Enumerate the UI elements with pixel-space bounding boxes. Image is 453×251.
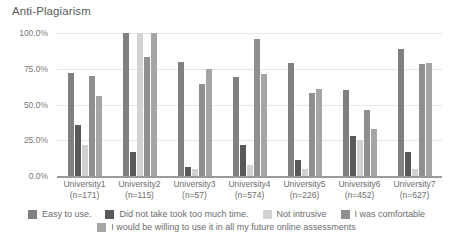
x-axis-category-count: (n=171) <box>57 190 112 201</box>
x-axis-category-count: (n=226) <box>277 190 332 201</box>
bar <box>240 145 246 176</box>
legend-item[interactable]: Did not take took too much time. <box>105 209 248 219</box>
y-axis-tick-label: 50.0% <box>24 100 48 110</box>
bar <box>364 110 370 176</box>
legend-item[interactable]: Easy to use. <box>28 209 92 219</box>
x-axis-category-label: University1(n=171) <box>57 179 112 200</box>
legend-item[interactable]: Not intrusive <box>263 209 327 219</box>
bar <box>89 76 95 176</box>
plot-area <box>57 33 442 176</box>
bar-group <box>167 33 222 176</box>
x-axis-category-label: University2(n=115) <box>112 179 167 200</box>
legend-swatch-icon <box>105 210 114 219</box>
x-axis-category-label: University5(n=226) <box>277 179 332 200</box>
legend-row-secondary: I would be willing to use it in all my f… <box>0 222 453 232</box>
chart-title: Anti-Plagiarism <box>12 5 91 17</box>
bar <box>316 89 322 176</box>
legend-swatch-icon <box>97 223 106 232</box>
bar <box>261 74 267 176</box>
legend-label: Easy to use. <box>42 209 92 219</box>
bar <box>75 125 81 176</box>
legend-swatch-icon <box>263 210 272 219</box>
x-axis-category-count: (n=57) <box>167 190 222 201</box>
bar <box>68 73 74 176</box>
legend-row-primary: Easy to use.Did not take took too much t… <box>0 209 453 219</box>
y-axis-tick-label: 25.0% <box>24 135 48 145</box>
bar <box>233 77 239 176</box>
legend-item[interactable]: I would be willing to use it in all my f… <box>97 222 356 232</box>
bar <box>96 96 102 176</box>
y-axis-tick-label: 75.0% <box>24 64 48 74</box>
bar-group <box>222 33 277 176</box>
legend-swatch-icon <box>28 210 37 219</box>
bar <box>206 69 212 176</box>
bar <box>426 63 432 176</box>
bar <box>82 145 88 176</box>
bar <box>350 136 356 176</box>
bar <box>371 129 377 176</box>
bar <box>123 33 129 176</box>
x-axis-category-name: University5 <box>283 179 325 189</box>
bar-group <box>277 33 332 176</box>
y-axis-tick-label: 100.0% <box>19 28 48 38</box>
x-axis-category-label: University3(n=57) <box>167 179 222 200</box>
legend-swatch-icon <box>341 210 350 219</box>
x-axis-category-name: University2 <box>118 179 160 189</box>
x-axis-category-count: (n=574) <box>222 190 277 201</box>
bar <box>405 152 411 176</box>
x-axis-category-name: University4 <box>228 179 270 189</box>
bar <box>343 90 349 176</box>
x-axis-category-count: (n=627) <box>387 190 442 201</box>
bar <box>309 93 315 176</box>
bar <box>398 49 404 176</box>
bar <box>144 57 150 176</box>
bar-group <box>112 33 167 176</box>
anti-plagiarism-bar-chart: Anti-Plagiarism 100.0%75.0%50.0%25.0%0.0… <box>0 0 453 251</box>
y-axis: 100.0%75.0%50.0%25.0%0.0% <box>0 33 52 176</box>
x-axis-category-name: University6 <box>338 179 380 189</box>
x-axis-category-count: (n=115) <box>112 190 167 201</box>
x-axis: University1(n=171)University2(n=115)Univ… <box>57 179 442 205</box>
bar <box>247 165 253 176</box>
chart-legend: Easy to use.Did not take took too much t… <box>0 209 453 235</box>
x-axis-category-name: University1 <box>63 179 105 189</box>
bar <box>151 33 157 176</box>
bar <box>199 84 205 176</box>
legend-item[interactable]: I was comfortable <box>341 209 426 219</box>
x-axis-category-label: University4(n=574) <box>222 179 277 200</box>
x-axis-category-name: University3 <box>173 179 215 189</box>
bar <box>254 39 260 176</box>
x-axis-category-label: University7(n=627) <box>387 179 442 200</box>
bar <box>357 140 363 176</box>
bar <box>419 64 425 176</box>
legend-label: I was comfortable <box>355 209 426 219</box>
bar <box>178 62 184 176</box>
bar <box>185 167 191 176</box>
bar <box>192 169 198 176</box>
legend-label: Did not take took too much time. <box>119 209 248 219</box>
legend-label: Not intrusive <box>277 209 327 219</box>
bar-group <box>332 33 387 176</box>
legend-label: I would be willing to use it in all my f… <box>111 222 356 232</box>
bar <box>295 160 301 176</box>
x-axis-category-label: University6(n=452) <box>332 179 387 200</box>
bar <box>130 152 136 176</box>
x-axis-category-name: University7 <box>393 179 435 189</box>
bar <box>302 169 308 176</box>
y-axis-tick-label: 0.0% <box>29 171 48 181</box>
bar <box>137 33 143 176</box>
x-axis-line <box>57 176 442 178</box>
bar <box>412 169 418 176</box>
bar-group <box>387 33 442 176</box>
bar-group <box>57 33 112 176</box>
bar <box>288 63 294 176</box>
x-axis-category-count: (n=452) <box>332 190 387 201</box>
